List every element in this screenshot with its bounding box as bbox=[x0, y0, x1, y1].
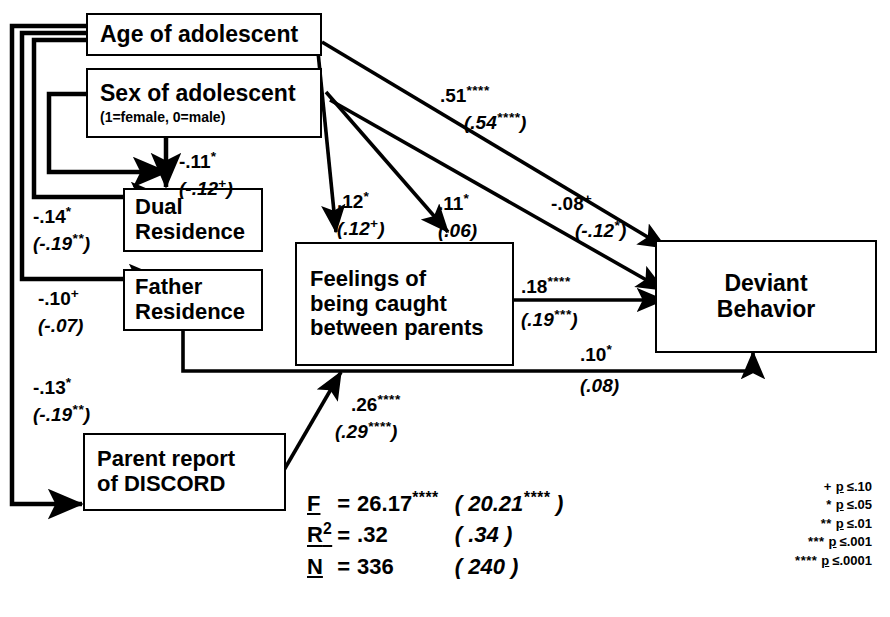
coef-primary: -.08 bbox=[551, 193, 584, 214]
stat-paren-value: ( 20.21**** ) bbox=[439, 489, 564, 520]
stat-row: R2 = .32 ( .34 ) bbox=[307, 520, 563, 551]
stat-row: N = 336 ( 240 ) bbox=[307, 552, 563, 583]
coef-secondary: (.08 bbox=[580, 375, 613, 396]
legend-operator: ≤ bbox=[847, 497, 854, 512]
path-label-age-father: -.10+ (-.07) bbox=[38, 285, 83, 338]
stat-key: R2 bbox=[307, 520, 337, 551]
path-label-age-discord: -.13* (-.19**) bbox=[33, 374, 90, 427]
coef-secondary-stars: + bbox=[370, 216, 378, 231]
node-label: Age of adolescent bbox=[100, 22, 298, 48]
node-label: Parent report of DISCORD bbox=[97, 447, 235, 496]
legend-row: *p≤.05 bbox=[795, 496, 872, 514]
path-label-sex-deviant: -.08+ (-.12*) bbox=[551, 190, 626, 243]
coef-primary-stars: * bbox=[463, 191, 469, 206]
coef-primary: .12 bbox=[337, 191, 363, 212]
path-diagram-canvas: Age of adolescent Sex of adolescent (1=f… bbox=[0, 0, 890, 617]
node-feelings-of-being-caught[interactable]: Feelings of being caught between parents bbox=[295, 242, 514, 366]
path-label-age-deviant: .51**** (.54****) bbox=[440, 82, 526, 135]
legend-row: ****p≤.0001 bbox=[795, 552, 872, 570]
coef-primary-stars: **** bbox=[547, 274, 570, 289]
coef-secondary: (.12 bbox=[337, 218, 370, 239]
node-parent-report-discord[interactable]: Parent report of DISCORD bbox=[83, 433, 286, 511]
coef-secondary-stars: *** bbox=[554, 307, 571, 322]
coef-secondary: (-.19 bbox=[33, 404, 72, 425]
path-label-age-dual: -.14* (-.19**) bbox=[33, 203, 90, 256]
node-sublabel: (1=female, 0=male) bbox=[100, 110, 225, 125]
legend-operator: ≤ bbox=[847, 479, 854, 494]
coef-primary: .26 bbox=[351, 394, 377, 415]
stat-key: N bbox=[307, 552, 337, 583]
coef-primary: .18 bbox=[521, 276, 547, 297]
legend-value: .01 bbox=[854, 516, 872, 531]
legend-value: .10 bbox=[854, 479, 872, 494]
legend-row: ***p≤.001 bbox=[795, 533, 872, 551]
model-statistics: F = 26.17**** ( 20.21**** ) R2 = .32 ( .… bbox=[307, 489, 563, 583]
coef-secondary-close: ) bbox=[391, 421, 397, 442]
legend-stars: * bbox=[826, 497, 832, 512]
legend-p: p bbox=[832, 479, 847, 494]
legend-stars: ** bbox=[821, 516, 832, 531]
legend-stars: *** bbox=[808, 534, 825, 549]
legend-p: p bbox=[825, 534, 840, 549]
stat-equals: = bbox=[337, 489, 357, 520]
legend-p: p bbox=[817, 553, 832, 568]
coef-primary-stars: **** bbox=[466, 83, 489, 98]
coef-primary: -.13 bbox=[33, 377, 66, 398]
coef-secondary-close: ) bbox=[227, 178, 233, 199]
stat-value: 336 bbox=[357, 552, 439, 583]
coef-secondary-close: ) bbox=[520, 112, 526, 133]
path-label-discord-caught: .26**** (.29****) bbox=[351, 391, 401, 444]
coef-secondary-close: ) bbox=[571, 309, 577, 330]
legend-operator: ≤ bbox=[840, 534, 847, 549]
node-father-residence[interactable]: Father Residence bbox=[123, 269, 263, 331]
stat-key: F bbox=[307, 489, 337, 520]
coef-primary: -.11 bbox=[179, 151, 211, 172]
coef-primary-stars: * bbox=[606, 342, 612, 357]
coef-primary-stars: + bbox=[584, 191, 592, 206]
coef-primary: -.14 bbox=[33, 206, 66, 227]
stat-paren-value: ( .34 ) bbox=[439, 520, 564, 551]
legend-value: .0001 bbox=[839, 553, 872, 568]
coef-secondary-stars: **** bbox=[497, 110, 520, 125]
legend-stars: **** bbox=[795, 553, 817, 568]
legend-row: **p≤.01 bbox=[795, 515, 872, 533]
coef-secondary: (.06 bbox=[438, 220, 471, 241]
coef-secondary-close: ) bbox=[84, 233, 90, 254]
legend-value: .05 bbox=[854, 497, 872, 512]
node-sex-of-adolescent[interactable]: Sex of adolescent (1=female, 0=male) bbox=[86, 68, 322, 138]
coef-primary-stars: * bbox=[66, 375, 72, 390]
coef-secondary-close: ) bbox=[84, 404, 90, 425]
coef-secondary-close: ) bbox=[471, 220, 477, 241]
node-label: Father Residence bbox=[135, 275, 245, 324]
node-label: Deviant Behavior bbox=[717, 271, 815, 323]
stat-paren-value: ( 240 ) bbox=[439, 552, 564, 583]
path-label-sex-caught: .11* (.06) bbox=[438, 190, 477, 243]
coef-secondary-close: ) bbox=[620, 220, 626, 241]
coef-primary-stars: **** bbox=[377, 392, 400, 407]
node-label: Dual Residence bbox=[135, 195, 245, 244]
stat-equals: = bbox=[337, 520, 357, 551]
coef-secondary: (-.07 bbox=[38, 315, 77, 336]
node-deviant-behavior[interactable]: Deviant Behavior bbox=[655, 240, 877, 353]
coef-secondary: (-.12 bbox=[179, 178, 218, 199]
node-age-of-adolescent[interactable]: Age of adolescent bbox=[86, 13, 322, 56]
coef-secondary-stars: ** bbox=[72, 402, 84, 417]
coef-primary-stars: + bbox=[71, 286, 79, 301]
path-label-sex-dual: -.11* (-.12+) bbox=[179, 148, 233, 201]
coef-secondary-close: ) bbox=[613, 375, 619, 396]
coef-secondary: (-.19 bbox=[33, 233, 72, 254]
coef-primary: -.10 bbox=[38, 288, 71, 309]
coef-secondary-close: ) bbox=[77, 315, 83, 336]
edge-discord-caught bbox=[284, 372, 341, 470]
significance-legend: +p≤.10 *p≤.05 **p≤.01 ***p≤.001 ****p≤.0… bbox=[795, 478, 872, 570]
stat-row: F = 26.17**** ( 20.21**** ) bbox=[307, 489, 563, 520]
coef-secondary-stars: + bbox=[218, 176, 226, 191]
coef-secondary-stars: **** bbox=[368, 419, 391, 434]
legend-p: p bbox=[832, 497, 847, 512]
path-label-father-deviant: .10* (.08) bbox=[580, 341, 619, 399]
coef-primary: .10 bbox=[580, 344, 606, 365]
coef-secondary: (.54 bbox=[464, 112, 497, 133]
node-label: Feelings of being caught between parents bbox=[310, 267, 484, 341]
coef-secondary-close: ) bbox=[378, 218, 384, 239]
legend-row: +p≤.10 bbox=[795, 478, 872, 496]
